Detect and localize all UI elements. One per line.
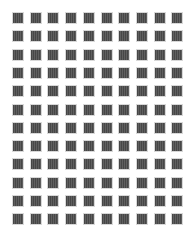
grid-square xyxy=(84,123,94,133)
grid-square xyxy=(48,68,58,78)
grid-square xyxy=(102,86,112,96)
grid-square xyxy=(84,178,94,188)
grid-square xyxy=(84,196,94,206)
grid-square xyxy=(102,105,112,115)
grid-square xyxy=(66,50,76,60)
grid-square xyxy=(172,214,182,224)
grid-square xyxy=(119,123,129,133)
grid-square xyxy=(48,214,58,224)
grid-square xyxy=(84,141,94,151)
grid-square xyxy=(102,196,112,206)
grid-square xyxy=(13,196,23,206)
grid-square xyxy=(13,141,23,151)
grid-square xyxy=(13,214,23,224)
grid-square xyxy=(172,13,182,23)
grid-square xyxy=(31,13,41,23)
grid-square xyxy=(172,196,182,206)
grid-square xyxy=(66,105,76,115)
grid-square xyxy=(66,86,76,96)
grid-square xyxy=(102,68,112,78)
grid-square xyxy=(137,196,147,206)
grid-square xyxy=(66,141,76,151)
grid-square xyxy=(172,31,182,41)
grid-square xyxy=(13,50,23,60)
grid-square xyxy=(13,105,23,115)
grid-square xyxy=(119,86,129,96)
grid-square xyxy=(31,214,41,224)
grid-square xyxy=(102,159,112,169)
grid-square xyxy=(119,105,129,115)
grid-square xyxy=(48,86,58,96)
grid-square xyxy=(172,105,182,115)
grid-square xyxy=(137,50,147,60)
grid-square xyxy=(102,123,112,133)
grid-square xyxy=(84,214,94,224)
grid-square xyxy=(31,68,41,78)
grid-square xyxy=(84,13,94,23)
grid-square xyxy=(13,31,23,41)
grid-square xyxy=(31,159,41,169)
grid-square xyxy=(66,214,76,224)
grid-square xyxy=(84,159,94,169)
grid-square xyxy=(48,13,58,23)
grid-square xyxy=(137,123,147,133)
grid-square xyxy=(155,105,165,115)
grid-square xyxy=(84,105,94,115)
grid-square xyxy=(102,31,112,41)
grid-square xyxy=(13,159,23,169)
grid-square xyxy=(119,159,129,169)
grid-square xyxy=(31,50,41,60)
grid-square xyxy=(48,178,58,188)
grid-square xyxy=(31,141,41,151)
grid-square xyxy=(119,68,129,78)
grid-square xyxy=(172,178,182,188)
grid-square xyxy=(137,13,147,23)
grid-square xyxy=(66,178,76,188)
grid-square xyxy=(48,141,58,151)
grid-square xyxy=(155,123,165,133)
grid-square xyxy=(31,196,41,206)
grid-square xyxy=(119,214,129,224)
grid-square xyxy=(137,105,147,115)
grid-square xyxy=(137,31,147,41)
grid-square xyxy=(155,50,165,60)
grid-square xyxy=(31,178,41,188)
grid-square xyxy=(155,141,165,151)
grid-square xyxy=(137,178,147,188)
grid-square xyxy=(137,214,147,224)
grid-square xyxy=(66,123,76,133)
grid-square xyxy=(119,178,129,188)
grid-square xyxy=(119,13,129,23)
grid-square xyxy=(155,214,165,224)
grid-square xyxy=(48,123,58,133)
grid-square xyxy=(172,141,182,151)
grid-square xyxy=(31,31,41,41)
grid-square xyxy=(119,141,129,151)
grid-square xyxy=(66,159,76,169)
grid-square xyxy=(155,13,165,23)
grid-square xyxy=(172,159,182,169)
grid-square xyxy=(84,50,94,60)
grid-square xyxy=(102,141,112,151)
grid-square xyxy=(102,178,112,188)
grid-square xyxy=(137,68,147,78)
grid-square xyxy=(102,13,112,23)
grid-square xyxy=(137,159,147,169)
grid-square xyxy=(172,86,182,96)
grid-square xyxy=(155,159,165,169)
grid-square xyxy=(13,13,23,23)
grid-square xyxy=(172,123,182,133)
grid-square xyxy=(13,86,23,96)
grid-square xyxy=(31,86,41,96)
grid-square xyxy=(66,68,76,78)
grid-square xyxy=(13,68,23,78)
grid-square xyxy=(172,50,182,60)
grid-square xyxy=(119,50,129,60)
grid-square xyxy=(172,68,182,78)
square-grid xyxy=(0,0,194,234)
grid-square xyxy=(48,196,58,206)
grid-square xyxy=(31,123,41,133)
grid-square xyxy=(119,196,129,206)
grid-square xyxy=(48,105,58,115)
grid-square xyxy=(155,178,165,188)
